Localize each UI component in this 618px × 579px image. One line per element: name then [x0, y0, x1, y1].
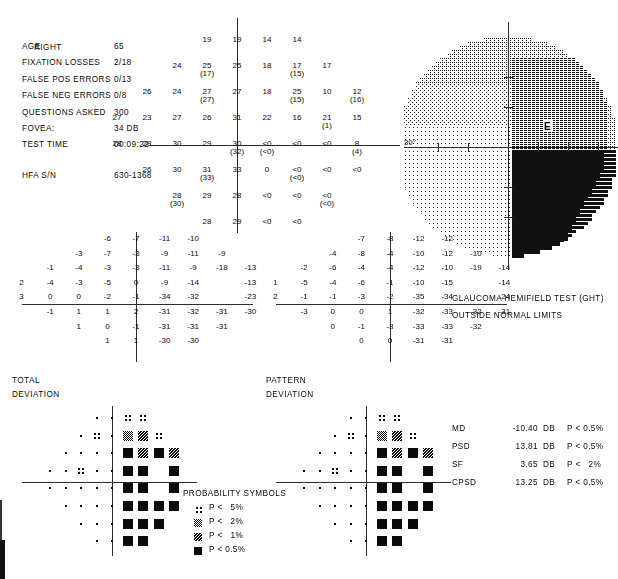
- field-point-value: -5: [96, 279, 118, 287]
- field-point-retest-value: (27): [196, 96, 218, 104]
- probability-symbol: [349, 522, 353, 526]
- legend-item: P < 2%: [183, 517, 286, 531]
- glaucoma-hemifield-test-block: GLAUCOMA HEMIFIELD TEST (GHT) OUTSIDE NO…: [452, 294, 604, 328]
- field-point-value: -8: [379, 235, 401, 243]
- field-point-value: <0: [316, 166, 338, 174]
- field-point-value: -4: [379, 264, 401, 272]
- field-point-value: -9: [182, 264, 204, 272]
- field-point-value: 19: [196, 36, 218, 44]
- field-point-value: <0: [286, 140, 308, 148]
- field-point-value: -2: [379, 293, 401, 301]
- ght-result: OUTSIDE NORMAL LIMITS: [452, 311, 604, 328]
- field-point-retest-value: (17): [196, 70, 218, 78]
- field-point-retest-value: (15): [286, 70, 308, 78]
- probability-symbol: [376, 430, 388, 442]
- ght-title: GLAUCOMA HEMIFIELD TEST (GHT): [452, 294, 604, 311]
- field-point-value: 28: [226, 192, 248, 200]
- field-point-value: 26: [196, 114, 218, 122]
- field-point-retest-value: (30): [166, 200, 188, 208]
- field-point-value: -32: [182, 308, 204, 316]
- probability-symbol: [153, 430, 165, 442]
- field-point-value: -10: [408, 250, 430, 258]
- probability-symbol: [137, 500, 149, 512]
- legend-text: P < 2%: [209, 517, 243, 526]
- field-point-value: 0: [350, 337, 372, 345]
- field-point-value: <0: [256, 218, 278, 226]
- probability-symbol: [137, 535, 149, 547]
- field-point-value: 12(16): [346, 88, 368, 105]
- field-point-value: -13: [239, 264, 261, 272]
- parameter-key: TEST TIME: [22, 140, 114, 149]
- parameter-value: 0/13: [114, 75, 132, 84]
- field-point-retest-value: (15): [286, 96, 308, 104]
- field-point-value: -31: [211, 323, 233, 331]
- field-point-value: 21(1): [316, 114, 338, 131]
- probability-symbol: [329, 465, 341, 477]
- probability-symbol: [95, 504, 99, 508]
- field-point-value: -4: [39, 279, 61, 287]
- field-point-value: -32: [408, 308, 430, 316]
- parameter-row: FALSE NEG ERRORS0/8: [22, 91, 152, 107]
- field-point-value: -6: [96, 235, 118, 243]
- field-point-value: -12: [436, 250, 458, 258]
- field-point-value: -3: [68, 250, 90, 258]
- total-deviation-probability-map: [22, 404, 197, 559]
- index-unit: DB: [538, 460, 567, 469]
- field-point-value: -7: [125, 235, 147, 243]
- field-point-value: <0(<0): [316, 192, 338, 209]
- pattern-deviation-probability-map: [276, 404, 451, 559]
- probability-symbol: [79, 486, 83, 490]
- probability-symbol: [407, 430, 419, 442]
- parameter-key: FALSE POS ERRORS: [22, 75, 114, 84]
- field-point-value: 2: [125, 308, 147, 316]
- axis-tick: [36, 304, 41, 305]
- field-point-value: 25(17): [196, 62, 218, 79]
- probability-symbol: [137, 465, 149, 477]
- probability-symbol: [137, 447, 149, 459]
- probability-symbol: [168, 447, 180, 459]
- field-point-value: 24: [166, 62, 188, 70]
- parameter-key: FALSE NEG ERRORS: [22, 91, 114, 100]
- field-point-retest-value: (33): [196, 174, 218, 182]
- field-point-value: -31: [154, 323, 176, 331]
- probability-symbol: [110, 469, 114, 473]
- field-point-value: -23: [239, 293, 261, 301]
- probability-symbol: [364, 434, 368, 438]
- probability-symbol: [48, 486, 52, 490]
- probability-symbol: [349, 416, 353, 420]
- field-point-value: 25: [226, 62, 248, 70]
- field-point-retest-value: (16): [346, 96, 368, 104]
- field-point-value: 3: [11, 293, 33, 301]
- field-point-value: -19: [465, 264, 487, 272]
- probability-symbol: [153, 447, 165, 459]
- legend-item: P < 0.5%: [183, 545, 286, 559]
- probability-symbol: [168, 500, 180, 512]
- index-name: CPSD: [452, 478, 486, 487]
- field-point-value: -7: [350, 235, 372, 243]
- probability-symbols-legend: PROBABILITY SYMBOLSP < 5%P < 2%P < 1%P <…: [183, 489, 286, 559]
- probability-symbol: [364, 469, 368, 473]
- scan-edge-artifact: [0, 540, 5, 579]
- probability-symbol: [122, 518, 134, 530]
- field-point-value: 1: [96, 337, 118, 345]
- field-point-value: 18: [256, 62, 278, 70]
- field-point-value: -4: [350, 264, 372, 272]
- index-value: -10.40: [486, 424, 538, 433]
- probability-symbol: [333, 451, 337, 455]
- field-point-value: -15: [436, 279, 458, 287]
- probability-symbol: [318, 469, 322, 473]
- field-point-value: 29: [196, 140, 218, 148]
- probability-symbol: [64, 469, 68, 473]
- field-point-value: 26: [136, 166, 158, 174]
- probability-symbol: [95, 486, 99, 490]
- probability-symbol: [333, 522, 337, 526]
- field-point-value: -6: [350, 279, 372, 287]
- field-point-value: 30(32): [226, 140, 248, 157]
- probability-symbol: [364, 504, 368, 508]
- parameter-value: 34 DB: [114, 124, 139, 133]
- probability-symbol: [302, 486, 306, 490]
- tdmap-vertical-axis: [112, 406, 113, 556]
- probability-symbol: [168, 482, 180, 494]
- global-index-row: CPSD13.25DBP < 0.5%: [452, 478, 604, 496]
- global-index-row: MD-10.40DBP < 0.5%: [452, 424, 604, 442]
